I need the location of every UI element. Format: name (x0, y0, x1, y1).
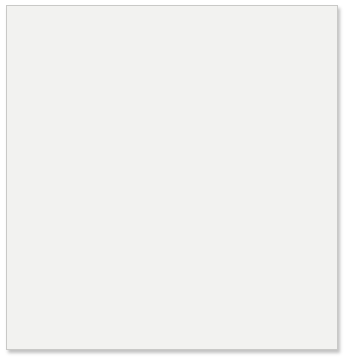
figure-card (6, 5, 338, 350)
chart-figure: 01020304050 199520002005 Year Change in … (0, 0, 346, 364)
